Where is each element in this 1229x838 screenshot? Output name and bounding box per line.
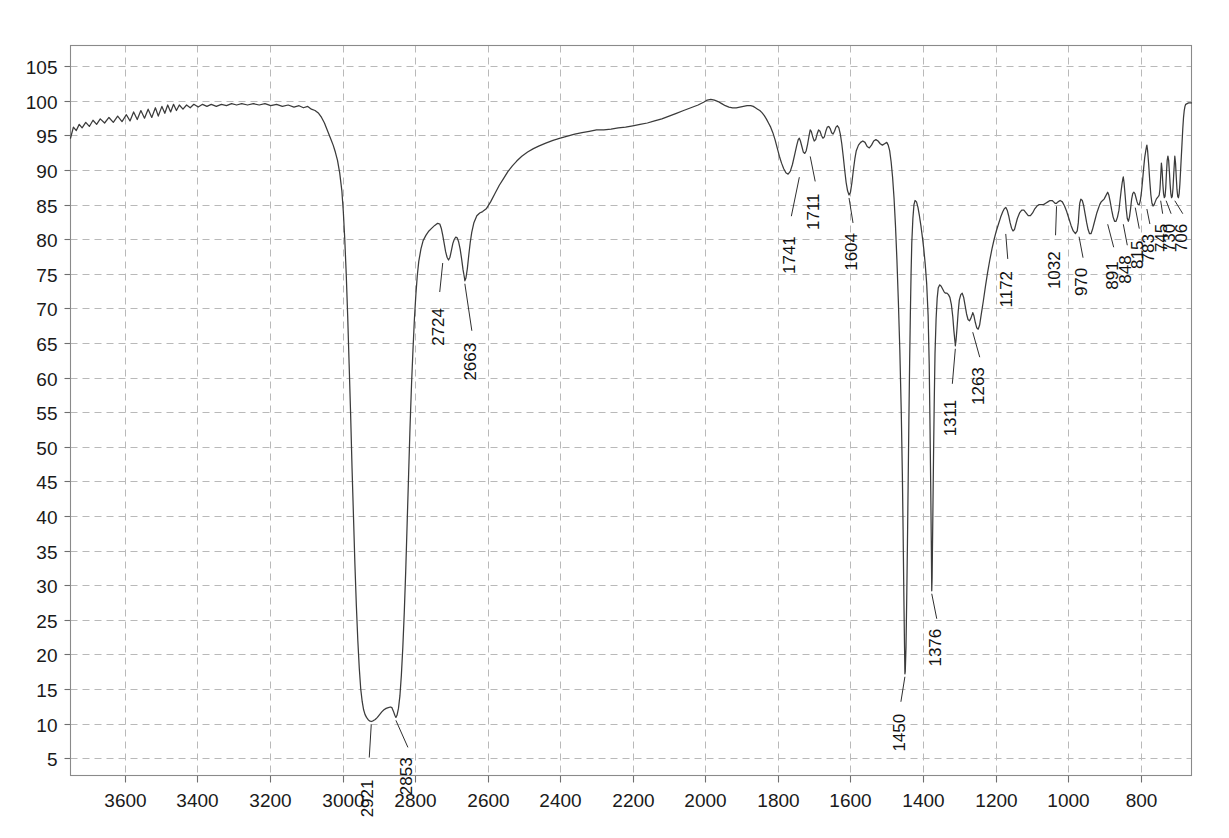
peak-970-label: 970 [1072,268,1091,296]
y-tick-label: 40 [36,507,57,528]
x-tick-label: 2000 [684,790,726,811]
y-tick-label: 65 [36,334,57,355]
peak-1376-label: 1376 [926,629,945,667]
x-tick-label: 1200 [975,790,1017,811]
peak-2663-label: 2663 [461,343,480,381]
x-tick-label: 1000 [1047,790,1089,811]
x-tick-label: 3600 [104,790,146,811]
y-tick-label: 5 [47,749,58,770]
y-tick-label: 85 [36,196,57,217]
y-tick-label: 35 [36,542,57,563]
x-tick-label: 3200 [249,790,291,811]
x-tick-label: 2200 [612,790,654,811]
spectrum-plot-area: 5101520253035404550556065707580859095100… [0,0,1229,838]
y-tick-label: 20 [36,645,57,666]
y-tick-label: 105 [26,57,58,78]
y-tick-label: 10 [36,715,57,736]
peak-2724-label: 2724 [429,308,448,346]
peak-706-label: 706 [1172,224,1191,252]
peak-1032-label: 1032 [1045,251,1064,289]
peak-1172-label: 1172 [997,271,1016,308]
y-tick-label: 15 [36,680,57,701]
ir-spectrum-chart: 5101520253035404550556065707580859095100… [0,0,1229,838]
x-tick-label: 2400 [539,790,581,811]
peak-1311-label: 1311 [941,400,960,437]
x-tick-label: 2600 [467,790,509,811]
peak-2853-label: 2853 [397,757,416,795]
y-tick-label: 100 [26,92,58,113]
y-tick-label: 75 [36,265,57,286]
y-tick-label: 30 [36,576,57,597]
y-tick-label: 55 [36,403,57,424]
x-tick-label: 800 [1126,790,1158,811]
peak-1450-label: 1450 [890,714,909,752]
y-tick-label: 90 [36,161,57,182]
peak-1741-label: 1741 [780,236,799,274]
y-tick-label: 80 [36,230,57,251]
y-tick-label: 25 [36,611,57,632]
y-tick-label: 95 [36,126,57,147]
y-tick-label: 50 [36,438,57,459]
peak-2921-label: 2921 [358,780,377,818]
y-tick-label: 60 [36,369,57,390]
peak-1604-label: 1604 [842,233,861,271]
y-tick-label: 45 [36,472,57,493]
x-tick-label: 1400 [902,790,944,811]
chart-background [0,0,1229,838]
x-tick-label: 1800 [757,790,799,811]
peak-1711-label: 1711 [804,193,823,230]
x-tick-label: 3400 [176,790,218,811]
x-axis-tick-labels: 3600340032003000280026002400220020001800… [104,790,1157,811]
x-tick-label: 1600 [829,790,871,811]
y-tick-label: 70 [36,299,57,320]
peak-1263-label: 1263 [969,367,988,405]
